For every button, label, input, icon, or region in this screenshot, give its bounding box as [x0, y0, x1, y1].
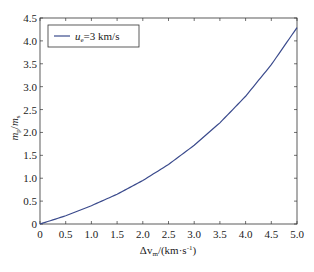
x-tick-label: 1.0 [85, 228, 99, 240]
y-tick-labels: 00.51.01.52.02.53.03.54.04.5 [23, 12, 37, 230]
y-tick-label: 4.5 [23, 12, 37, 24]
legend: ue=3 km/s [48, 25, 139, 47]
x-tick-label: 4.5 [264, 228, 278, 240]
plot-frame [40, 18, 297, 224]
x-tick-label: 0.5 [59, 228, 73, 240]
y-tick-label: 2.0 [23, 126, 37, 138]
x-tick-label: 3.0 [187, 228, 201, 240]
x-tick-label: 5.0 [290, 228, 304, 240]
y-tick-label: 1.0 [23, 172, 37, 184]
y-tick-label: 1.5 [23, 149, 37, 161]
x-axis-label: Δvm/(km·s-1) [140, 244, 197, 258]
y-axis-label: mp/ms [8, 115, 22, 140]
y-tick-label: 0.5 [23, 195, 37, 207]
x-tick-label: 4.0 [239, 228, 253, 240]
y-tick-label: 3.0 [23, 81, 37, 93]
x-tick-label: 1.5 [110, 228, 124, 240]
line-chart: 00.51.01.52.02.53.03.54.04.55.0 00.51.01… [0, 0, 314, 272]
y-tick-label: 4.0 [23, 35, 37, 47]
series-line [40, 28, 297, 224]
y-tick-label: 0 [32, 218, 38, 230]
x-tick-label: 0 [37, 228, 43, 240]
plot-area [40, 18, 297, 224]
x-tick-labels: 00.51.01.52.02.53.03.54.04.55.0 [37, 228, 304, 240]
x-tick-label: 2.0 [136, 228, 150, 240]
y-tick-label: 3.5 [23, 58, 37, 70]
x-tick-label: 3.5 [213, 228, 227, 240]
y-tick-label: 2.5 [23, 104, 37, 116]
ticks [40, 18, 297, 224]
x-tick-label: 2.5 [162, 228, 176, 240]
